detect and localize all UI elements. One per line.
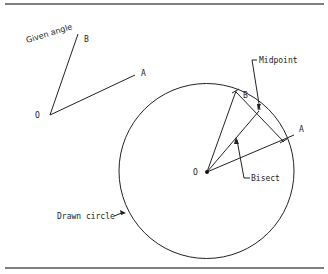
bisect-leader bbox=[237, 140, 250, 178]
given-label-b: B bbox=[84, 35, 89, 44]
label-b: B bbox=[243, 91, 248, 100]
ray-oa bbox=[207, 135, 294, 172]
given-angle: Given angle B A O bbox=[25, 22, 146, 120]
midpoint-leader bbox=[252, 60, 260, 110]
given-angle-title: Given angle bbox=[25, 22, 74, 45]
label-a: A bbox=[299, 125, 304, 134]
angle-bisection-diagram: Given angle B A O Midpoint Bisect Drawn … bbox=[0, 0, 328, 274]
ray-ob bbox=[207, 91, 236, 172]
center-point bbox=[205, 170, 209, 174]
midpoint-arrowhead bbox=[257, 104, 261, 111]
given-ray-ob bbox=[50, 34, 78, 115]
given-ray-oa bbox=[50, 75, 135, 115]
label-o: O bbox=[193, 168, 198, 177]
given-label-a: A bbox=[141, 69, 146, 78]
label-drawn-circle: Drawn circle bbox=[57, 212, 115, 221]
bisector-line bbox=[207, 111, 259, 172]
circle-arrowhead bbox=[120, 210, 126, 215]
construction: Midpoint Bisect Drawn circle B A O bbox=[57, 56, 304, 259]
label-midpoint: Midpoint bbox=[259, 56, 298, 65]
label-bisect: Bisect bbox=[251, 174, 280, 183]
given-label-o: O bbox=[35, 111, 40, 120]
